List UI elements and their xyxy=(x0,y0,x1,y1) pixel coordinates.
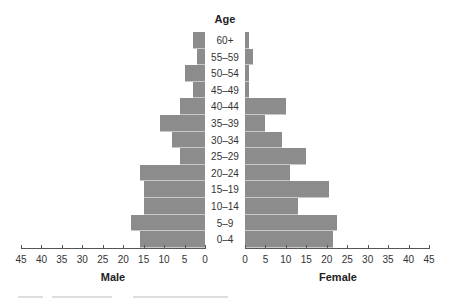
male-bar xyxy=(197,49,205,66)
female-axis-tick xyxy=(327,245,328,249)
female-bar xyxy=(245,32,249,49)
male-bar xyxy=(172,132,205,149)
male-axis-tick xyxy=(205,245,206,249)
male-axis-tick xyxy=(41,245,42,249)
male-axis-tick xyxy=(164,245,165,249)
male-axis-tick-label: 15 xyxy=(134,254,154,265)
male-axis-tick xyxy=(62,245,63,249)
female-axis-tick-label: 15 xyxy=(296,254,316,265)
female-axis-tick xyxy=(429,245,430,249)
male-bar xyxy=(140,165,205,182)
female-axis-tick xyxy=(347,245,348,249)
male-axis-tick xyxy=(144,245,145,249)
male-bar xyxy=(185,65,205,82)
age-group-label: 20–24 xyxy=(205,168,245,179)
male-axis-tick-label: 0 xyxy=(195,254,215,265)
age-group-label: 30–34 xyxy=(205,135,245,146)
male-axis-tick xyxy=(185,245,186,249)
female-axis-tick-label: 35 xyxy=(378,254,398,265)
male-axis-tick-label: 45 xyxy=(11,254,31,265)
age-group-label: 5–9 xyxy=(205,218,245,229)
female-bar xyxy=(245,165,290,182)
age-group-label: 25–29 xyxy=(205,151,245,162)
female-bar xyxy=(245,215,337,232)
chart-title: Age xyxy=(205,13,245,25)
male-bar xyxy=(180,98,205,115)
female-axis-tick-label: 40 xyxy=(399,254,419,265)
female-axis-tick-label: 45 xyxy=(419,254,439,265)
male-axis-tick-label: 40 xyxy=(31,254,51,265)
female-axis-tick xyxy=(286,245,287,249)
male-bar xyxy=(193,32,205,49)
age-group-label: 45–49 xyxy=(205,85,245,96)
male-bar xyxy=(144,198,205,215)
male-bar xyxy=(140,231,205,248)
female-axis-tick-label: 0 xyxy=(235,254,255,265)
male-axis-title: Male xyxy=(93,271,133,283)
male-axis-tick-label: 35 xyxy=(52,254,72,265)
female-axis-tick-label: 10 xyxy=(276,254,296,265)
male-axis-tick-label: 25 xyxy=(93,254,113,265)
female-bar xyxy=(245,148,306,165)
age-group-label: 55–59 xyxy=(205,52,245,63)
female-axis-tick-label: 20 xyxy=(317,254,337,265)
male-bar xyxy=(144,181,205,198)
female-bar xyxy=(245,181,329,198)
female-bar xyxy=(245,98,286,115)
female-bar xyxy=(245,115,265,132)
female-axis-title: Female xyxy=(313,271,363,283)
male-axis-tick xyxy=(82,245,83,249)
female-bar xyxy=(245,82,249,99)
male-bar xyxy=(180,148,205,165)
male-bar xyxy=(131,215,205,232)
age-group-label: 60+ xyxy=(205,35,245,46)
male-axis-tick-label: 30 xyxy=(72,254,92,265)
female-bar xyxy=(245,65,249,82)
male-axis-tick-label: 10 xyxy=(154,254,174,265)
female-axis-tick xyxy=(245,245,246,249)
age-group-label: 10–14 xyxy=(205,201,245,212)
male-axis-tick xyxy=(103,245,104,249)
female-bar xyxy=(245,231,333,248)
age-group-label: 0–4 xyxy=(205,234,245,245)
female-axis-tick xyxy=(265,245,266,249)
age-group-label: 50–54 xyxy=(205,68,245,79)
female-axis-tick xyxy=(409,245,410,249)
female-axis-tick-label: 5 xyxy=(255,254,275,265)
female-bar xyxy=(245,49,253,66)
female-axis-tick xyxy=(368,245,369,249)
male-axis-tick xyxy=(123,245,124,249)
female-axis-tick xyxy=(306,245,307,249)
female-bar xyxy=(245,132,282,149)
male-axis-line xyxy=(21,248,206,249)
male-axis-tick xyxy=(21,245,22,249)
male-axis-tick-label: 5 xyxy=(175,254,195,265)
female-axis-tick-label: 30 xyxy=(358,254,378,265)
female-bar xyxy=(245,198,298,215)
male-axis-tick-label: 20 xyxy=(113,254,133,265)
female-axis-line xyxy=(245,248,430,249)
male-bar xyxy=(193,82,205,99)
female-axis-tick-label: 25 xyxy=(337,254,357,265)
age-group-label: 15–19 xyxy=(205,184,245,195)
age-group-label: 40–44 xyxy=(205,101,245,112)
female-axis-tick xyxy=(388,245,389,249)
male-bar xyxy=(160,115,205,132)
figure-caption xyxy=(18,293,228,299)
age-group-label: 35–39 xyxy=(205,118,245,129)
